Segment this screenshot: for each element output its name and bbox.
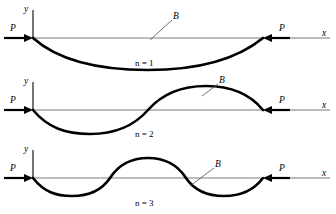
beam-leader-line-3 (190, 168, 214, 186)
y-axis-label-2: y (23, 76, 29, 86)
beam-label-2: B (219, 75, 225, 85)
load-label-left-3: P (9, 163, 16, 173)
x-axis-label-1: x (321, 28, 327, 38)
load-label-right-2: P (278, 95, 285, 105)
beam-curve-mode-3 (33, 158, 263, 196)
x-axis-label-3: x (321, 168, 327, 178)
load-arrow-right-3 (263, 174, 290, 182)
load-label-left-1: P (9, 23, 16, 33)
x-axis-label-2: x (321, 100, 327, 110)
load-label-right-3: P (278, 163, 285, 173)
y-axis-label-3: y (23, 144, 29, 154)
load-arrow-right-2 (263, 106, 290, 114)
beam-label-1: B (173, 11, 179, 21)
load-label-right-1: P (278, 23, 285, 33)
load-arrow-left-1 (4, 34, 33, 42)
load-label-left-2: P (9, 95, 16, 105)
buckling-mode-figure: y x P P B n = 1 (0, 0, 336, 214)
beam-leader-line-1 (150, 20, 172, 40)
panel-mode-3: y x P P B n = 3 (4, 144, 330, 208)
load-arrow-right-1 (263, 34, 290, 42)
panel-mode-2: y x P P B n = 2 (4, 75, 330, 139)
mode-label-1: n = 1 (135, 58, 154, 68)
load-arrow-left-3 (4, 174, 33, 182)
load-arrow-left-2 (4, 106, 33, 114)
beam-label-3: B (215, 159, 221, 169)
figure-canvas: y x P P B n = 1 (0, 0, 336, 214)
y-axis-label-1: y (23, 4, 29, 14)
mode-label-2: n = 2 (135, 129, 154, 139)
mode-label-3: n = 3 (135, 198, 154, 208)
panel-mode-1: y x P P B n = 1 (4, 4, 330, 70)
